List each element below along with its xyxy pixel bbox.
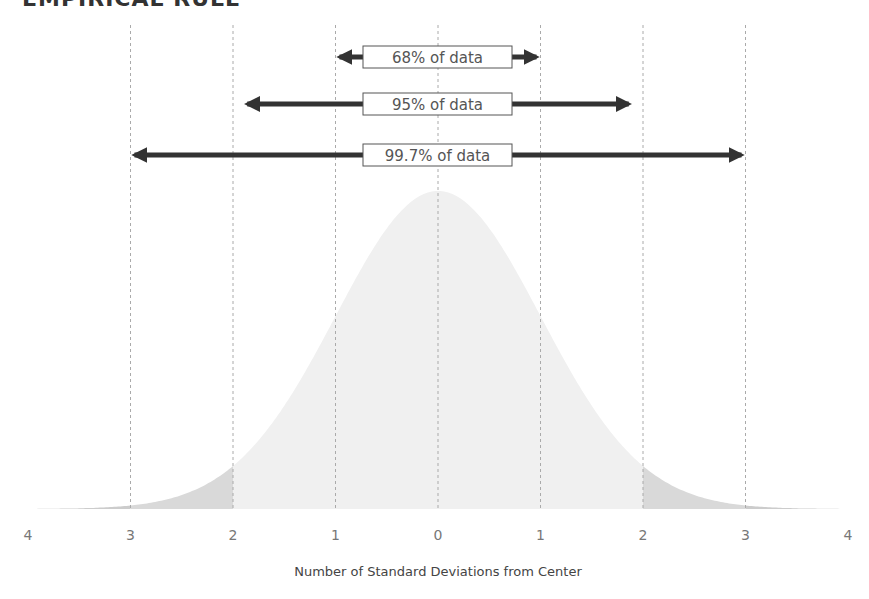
- range-label: 99.7% of data: [385, 147, 490, 165]
- shaded-region: [643, 466, 746, 509]
- shaded-region: [746, 506, 849, 510]
- bell-curve-chart: 68% of data95% of data99.7% of data 4321…: [0, 0, 869, 599]
- x-tick-label: 0: [434, 527, 443, 543]
- x-tick-label: 2: [229, 527, 238, 543]
- shaded-region: [28, 506, 131, 510]
- x-tick-label: 2: [639, 527, 648, 543]
- range-label: 68% of data: [392, 49, 483, 67]
- shaded-region: [131, 466, 234, 509]
- range-annotation: 68% of data: [340, 46, 537, 68]
- x-axis-ticks: 432101234: [24, 527, 853, 543]
- x-tick-label: 3: [741, 527, 750, 543]
- x-tick-label: 3: [126, 527, 135, 543]
- x-tick-label: 4: [844, 527, 853, 543]
- x-axis-label: Number of Standard Deviations from Cente…: [294, 564, 582, 579]
- range-arrows: 68% of data95% of data99.7% of data: [135, 46, 742, 166]
- x-tick-label: 4: [24, 527, 33, 543]
- x-tick-label: 1: [331, 527, 340, 543]
- x-tick-label: 1: [536, 527, 545, 543]
- range-annotation: 99.7% of data: [135, 144, 742, 166]
- range-annotation: 95% of data: [247, 93, 629, 115]
- range-label: 95% of data: [392, 96, 483, 114]
